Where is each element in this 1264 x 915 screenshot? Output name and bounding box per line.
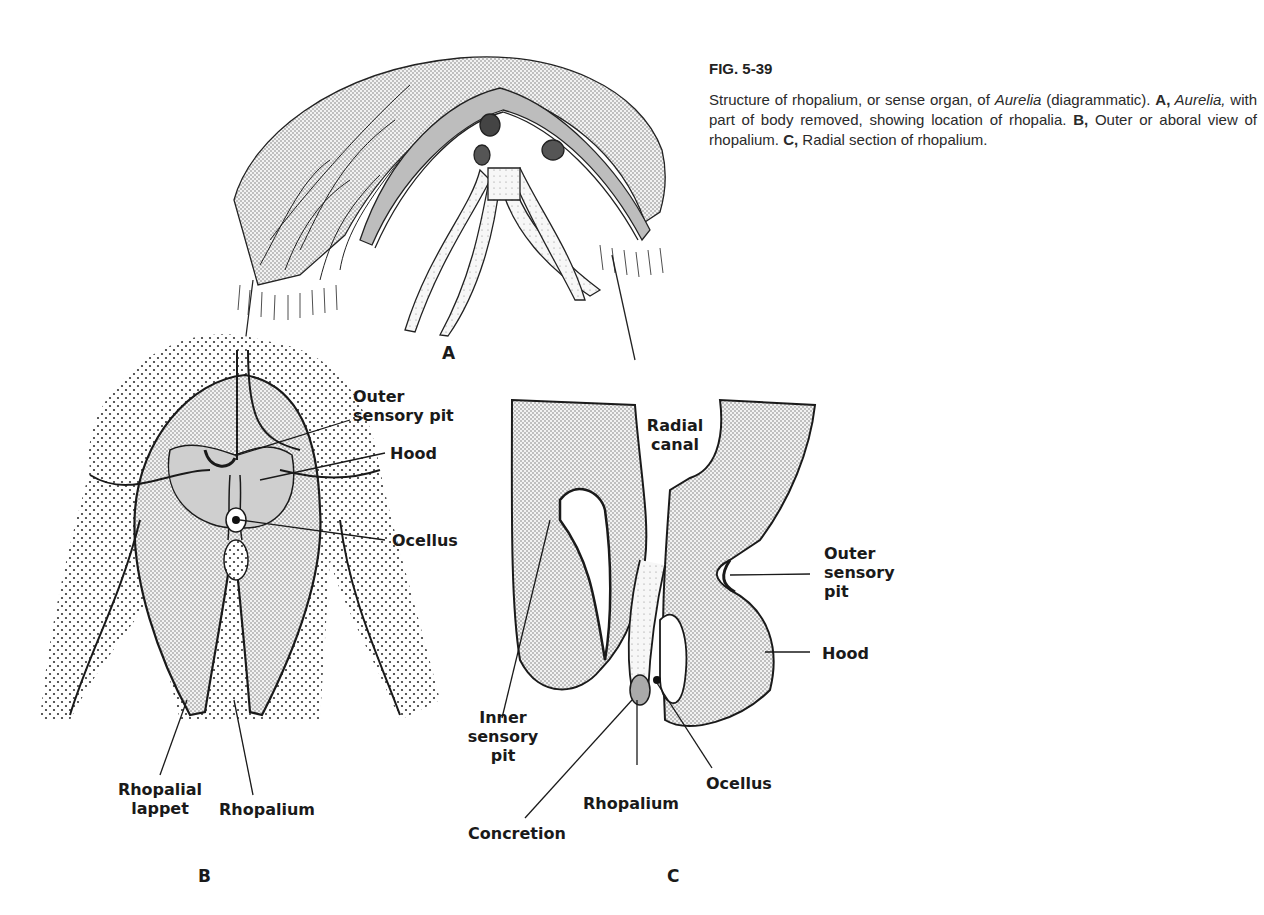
- label-c-radial-canal: Radial canal: [640, 416, 710, 454]
- label-c-hood: Hood: [822, 644, 869, 663]
- label-c-ocellus: Ocellus: [706, 774, 772, 793]
- panel-letter-b: B: [198, 866, 211, 886]
- label-c-inner-sensory-pit: Inner sensory pit: [463, 708, 543, 765]
- panel-a-jellyfish: [234, 57, 665, 360]
- label-c-concretion: Concretion: [468, 824, 566, 843]
- label-c-rhopalium: Rhopalium: [583, 794, 679, 813]
- label-c-outer-sensory-pit: Outer sensory pit: [824, 544, 895, 601]
- label-b-rhopalium: Rhopalium: [219, 800, 315, 819]
- figure-number: FIG. 5-39: [709, 60, 1257, 77]
- panel-letter-c: C: [667, 866, 679, 886]
- label-b-outer-sensory-pit: Outer sensory pit: [353, 387, 454, 425]
- label-b-hood: Hood: [390, 444, 437, 463]
- panel-letter-a: A: [442, 343, 455, 363]
- figure-caption: FIG. 5-39 Structure of rhopalium, or sen…: [709, 60, 1257, 150]
- caption-text: Structure of rhopalium, or sense organ, …: [709, 90, 1257, 150]
- label-b-rhopalial-lappet: Rhopalial lappet: [105, 780, 215, 818]
- panel-c-section: [502, 400, 815, 818]
- label-b-ocellus: Ocellus: [392, 531, 458, 550]
